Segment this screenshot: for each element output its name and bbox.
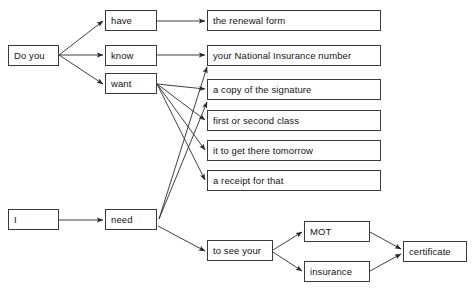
e-doyou-have	[59, 21, 103, 55]
e-want-class	[157, 84, 205, 120]
e-mot-certificate	[370, 232, 401, 249]
node-label-know: know	[111, 51, 134, 61]
node-have[interactable]: have	[105, 10, 157, 31]
node-certificate[interactable]: certificate	[403, 241, 467, 262]
node-mot[interactable]: MOT	[304, 221, 370, 242]
node-to_see_your[interactable]: to see your	[207, 240, 273, 261]
node-label-need: need	[111, 215, 133, 225]
node-label-class: first or second class	[213, 116, 299, 126]
e-toseeyour-insurance	[273, 252, 302, 271]
node-label-to_see_your: to see your	[213, 246, 261, 256]
node-tomorrow[interactable]: it to get there tomorrow	[207, 140, 381, 161]
node-label-signature: a copy of the signature	[213, 85, 311, 95]
node-label-certificate: certificate	[409, 247, 451, 257]
e-insurance-certificate	[370, 254, 401, 271]
node-ni_number[interactable]: your National Insurance number	[207, 45, 381, 66]
e-want-signature	[157, 84, 205, 89]
node-label-ni_number: your National Insurance number	[213, 51, 351, 61]
node-label-receipt: a receipt for that	[213, 176, 283, 186]
node-label-i: I	[14, 215, 17, 225]
node-need[interactable]: need	[105, 209, 157, 230]
diagram-canvas: Do youhaveknowwantthe renewal formyour N…	[0, 0, 476, 297]
node-insurance[interactable]: insurance	[304, 261, 370, 282]
node-know[interactable]: know	[105, 45, 157, 66]
node-renewal_form[interactable]: the renewal form	[207, 10, 381, 31]
e-toseeyour-mot	[273, 232, 302, 250]
e-need-toseeyour	[158, 226, 205, 251]
node-label-want: want	[111, 79, 131, 89]
e-doyou-want	[59, 55, 103, 84]
node-class[interactable]: first or second class	[207, 110, 381, 131]
node-label-have: have	[111, 16, 132, 26]
node-want[interactable]: want	[105, 73, 157, 94]
node-receipt[interactable]: a receipt for that	[207, 170, 381, 191]
node-signature[interactable]: a copy of the signature	[207, 79, 381, 100]
node-label-tomorrow: it to get there tomorrow	[213, 146, 313, 156]
node-label-insurance: insurance	[310, 267, 352, 277]
node-label-renewal_form: the renewal form	[213, 16, 285, 26]
node-label-do_you: Do you	[14, 51, 45, 61]
node-label-mot: MOT	[310, 227, 331, 237]
e-want-tomorrow	[157, 84, 205, 150]
node-i[interactable]: I	[8, 209, 59, 230]
node-do_you[interactable]: Do you	[8, 45, 59, 66]
